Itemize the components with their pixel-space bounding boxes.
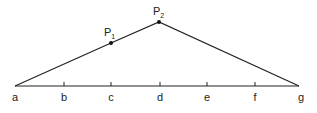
- point-p2: [157, 20, 161, 24]
- label-p2: P2: [153, 5, 164, 19]
- axis-label-d: d: [157, 91, 163, 103]
- axis-label-a: a: [12, 91, 19, 103]
- axis-label-b: b: [61, 91, 67, 103]
- triangle-diagram: P1 P2 a b c d e f g: [0, 0, 317, 113]
- profile-line: [15, 22, 299, 86]
- axis-label-c: c: [108, 91, 114, 103]
- label-p1: P1: [104, 26, 115, 40]
- axis-label-g: g: [298, 91, 304, 103]
- point-p1: [109, 41, 113, 45]
- axis-label-f: f: [253, 91, 257, 103]
- axis-label-e: e: [204, 91, 210, 103]
